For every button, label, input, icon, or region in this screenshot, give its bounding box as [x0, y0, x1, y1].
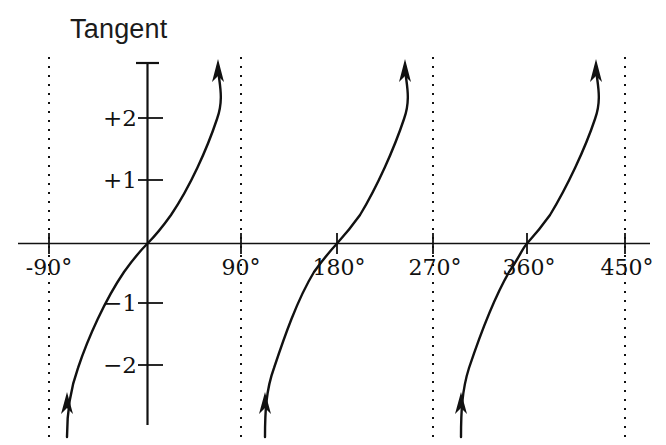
y-axis-label-minus-2: −2: [103, 352, 137, 378]
x-axis-label--90: -90°: [26, 255, 72, 280]
tangent-graph-figure: Tangent: [0, 0, 666, 445]
x-axis-label-180: 180°: [313, 255, 366, 280]
y-axis-label-plus-2: +2: [103, 105, 137, 131]
x-axis-label-360: 360°: [503, 255, 556, 280]
curve-arrowheads: [61, 59, 602, 414]
x-axis-label-270: 270°: [409, 255, 462, 280]
tangent-branch-3: [461, 66, 599, 437]
tangent-branch-1: [67, 66, 221, 437]
y-axis-label-minus-1: −1: [103, 290, 137, 316]
x-axis-label-450: 450°: [601, 255, 654, 280]
x-axis-label-90: 90°: [222, 255, 261, 280]
y-axis-label-plus-1: +1: [103, 167, 137, 193]
tangent-plot-canvas: [0, 0, 666, 445]
